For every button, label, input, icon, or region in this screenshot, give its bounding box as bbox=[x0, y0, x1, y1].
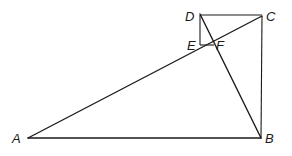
label-e: E bbox=[187, 38, 196, 53]
segment-ac bbox=[28, 16, 262, 138]
label-b: B bbox=[265, 131, 274, 146]
segment-cb bbox=[261, 16, 262, 138]
label-f: F bbox=[216, 38, 225, 53]
label-c: C bbox=[266, 9, 276, 24]
geometry-diagram: A B C D E F bbox=[0, 0, 292, 156]
label-a: A bbox=[11, 131, 21, 146]
label-d: D bbox=[185, 9, 194, 24]
